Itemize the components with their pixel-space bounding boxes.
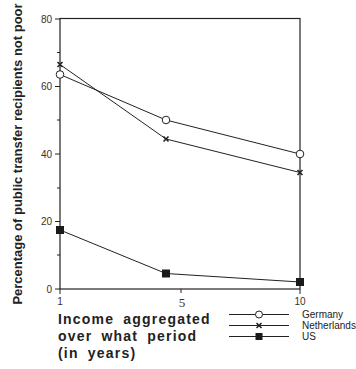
y-tick-40: 40 <box>41 149 53 160</box>
y-tick-80: 80 <box>41 14 53 25</box>
legend-item-germany: Germany <box>229 309 356 320</box>
y-tick-20: 20 <box>41 216 53 227</box>
series-netherlands-markers <box>58 62 303 175</box>
legend-item-netherlands: Netherlands <box>229 320 356 331</box>
x-axis-ticks <box>60 289 300 294</box>
x-axis-label: Income aggregated over what period (in y… <box>58 311 211 362</box>
legend: Germany Netherlands US <box>229 309 356 342</box>
legend-label-germany: Germany <box>302 309 343 320</box>
legend-label-us: US <box>302 331 316 342</box>
x-axis-label-line-1: Income aggregated <box>58 311 211 328</box>
series-us-markers <box>56 226 304 286</box>
x-axis-label-line-3: (in years) <box>58 345 211 362</box>
series-us-line <box>60 230 300 282</box>
y-axis-ticks <box>55 19 60 289</box>
y-tick-0: 0 <box>46 284 52 295</box>
x-tick-5: 5 <box>179 295 186 310</box>
legend-item-us: US <box>229 331 356 342</box>
x-tick-10: 10 <box>294 296 306 307</box>
series-germany-markers <box>56 71 304 158</box>
plot-frame <box>60 19 300 290</box>
x-axis-label-line-2: over what period <box>58 328 211 345</box>
x-tick-1: 1 <box>57 296 63 307</box>
open-circle-marker-icon <box>229 309 289 320</box>
legend-label-netherlands: Netherlands <box>302 320 356 331</box>
y-axis-label: Percentage of public transfer recipients… <box>10 3 25 304</box>
x-marker-icon <box>229 320 289 331</box>
y-tick-60: 60 <box>41 81 53 92</box>
filled-square-marker-icon <box>229 331 289 342</box>
series-netherlands-line <box>60 65 300 173</box>
